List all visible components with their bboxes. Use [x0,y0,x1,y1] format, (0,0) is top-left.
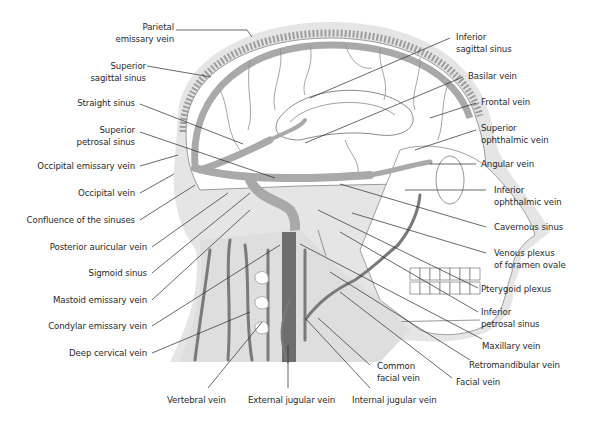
label-line: External jugular vein [248,394,335,406]
label-line: ophthalmic vein [481,134,549,146]
label-line: sagittal sinus [456,43,512,55]
label-posterior-auricular-vein: Posterior auricular vein [50,241,147,253]
head-neck-veins-figure: Parietal emissary vein Superior sagittal… [0,0,589,425]
label-line: Straight sinus [77,97,135,109]
label-frontal-vein: Frontal vein [481,96,530,108]
label-line: Facial vein [456,376,500,388]
label-line: Frontal vein [481,96,530,108]
label-line: ophthalmic vein [494,196,562,208]
label-line: petrosal sinus [77,136,135,148]
label-inferior-ophthalmic-vein: Inferior ophthalmic vein [494,184,562,208]
label-line: Pterygoid plexus [481,283,551,295]
label-line: Superior [77,124,135,136]
label-superior-petrosal-sinus: Superior petrosal sinus [77,124,135,148]
label-line: Posterior auricular vein [50,241,147,253]
label-line: Maxillary vein [482,340,540,352]
label-inferior-sagittal-sinus: Inferior sagittal sinus [456,31,512,55]
label-line: facial vein [377,372,420,384]
label-line: Inferior [456,31,512,43]
label-line: Condylar emissary vein [48,320,147,332]
label-mastoid-emissary-vein: Mastoid emissary vein [53,294,147,306]
label-basilar-vein: Basilar vein [468,70,517,82]
label-line: Retromandibular vein [469,359,560,371]
label-angular-vein: Angular vein [481,158,534,170]
label-confluence-of-the-sinuses: Confluence of the sinuses [27,214,135,226]
label-line: Occipital vein [78,187,135,199]
label-occipital-vein: Occipital vein [78,187,135,199]
internal-jugular-vein-shape [282,232,296,362]
label-line: Inferior [494,184,562,196]
label-line: sagittal sinus [90,72,146,84]
label-line: Cavernous sinus [494,221,563,233]
label-common-facial-vein: Common facial vein [377,360,420,384]
label-line: Venous plexus [494,247,566,259]
label-superior-sagittal-sinus: Superior sagittal sinus [90,60,146,84]
label-vertebral-vein: Vertebral vein [167,394,226,406]
label-line: Internal jugular vein [352,394,437,406]
label-line: Basilar vein [468,70,517,82]
label-line: of foramen ovale [494,259,566,271]
label-line: Occipital emissary vein [37,160,135,172]
label-line: Angular vein [481,158,534,170]
label-venous-plexus-of-foramen-ovale: Venous plexus of foramen ovale [494,247,566,271]
label-superior-ophthalmic-vein: Superior ophthalmic vein [481,122,549,146]
label-maxillary-vein: Maxillary vein [482,340,540,352]
label-line: Sigmoid sinus [89,267,147,279]
label-pterygoid-plexus: Pterygoid plexus [481,283,551,295]
label-line: Inferior [481,306,539,318]
label-line: Common [377,360,420,372]
label-line: emissary vein [115,33,174,45]
label-sigmoid-sinus: Sigmoid sinus [89,267,147,279]
label-internal-jugular-vein: Internal jugular vein [352,394,437,406]
label-external-jugular-vein: External jugular vein [248,394,335,406]
label-occipital-emissary-vein: Occipital emissary vein [37,160,135,172]
label-retromandibular-vein: Retromandibular vein [469,359,560,371]
label-condylar-emissary-vein: Condylar emissary vein [48,320,147,332]
label-inferior-petrosal-sinus: Inferior petrosal sinus [481,306,539,330]
label-cavernous-sinus: Cavernous sinus [494,221,563,233]
label-facial-vein: Facial vein [456,376,500,388]
label-line: Parietal [115,21,174,33]
label-line: petrosal sinus [481,318,539,330]
label-line: Confluence of the sinuses [27,214,135,226]
label-line: Vertebral vein [167,394,226,406]
label-deep-cervical-vein: Deep cervical vein [69,347,147,359]
label-line: Superior [90,60,146,72]
vertebrae [255,271,268,333]
label-line: Mastoid emissary vein [53,294,147,306]
label-line: Deep cervical vein [69,347,147,359]
label-parietal-emissary-vein: Parietal emissary vein [115,21,174,45]
label-line: Superior [481,122,549,134]
label-straight-sinus: Straight sinus [77,97,135,109]
